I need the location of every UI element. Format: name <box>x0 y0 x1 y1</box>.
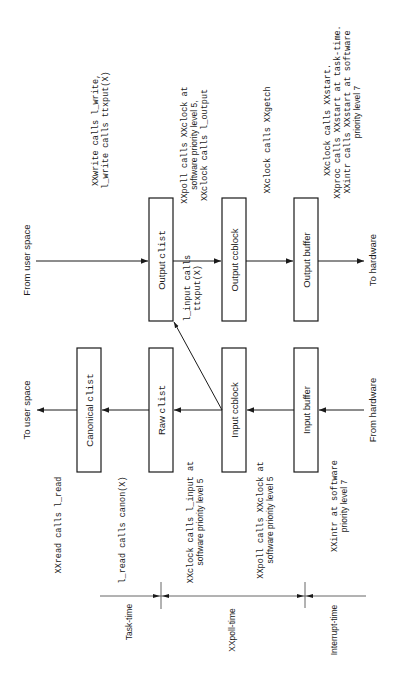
interrupt-time-label: Interrupt-time <box>329 604 339 655</box>
annotation-clock-input-line2: software priority level 5 <box>195 478 205 565</box>
to-hardware-label: To hardware <box>367 234 378 286</box>
axis-arrowhead <box>162 594 169 598</box>
svg-text:Output clist: Output clist <box>156 230 168 290</box>
xxpoll-time-label: XXpoll-time <box>227 608 237 652</box>
svg-text:Input ccblock: Input ccblock <box>229 382 240 438</box>
canonical-clist-box: Canonical clist <box>77 348 101 472</box>
output-ccblock-box: Output ccblock <box>222 198 246 321</box>
annotation-poll-line3: XXclock calls l_output <box>200 89 210 201</box>
from-user-space-label: From user space <box>21 224 32 295</box>
axis-arrowhead <box>306 594 313 598</box>
annotation-poll-clock-line2: software priority level 5 <box>265 476 275 563</box>
annotation-write-line1: XXwrite calls l_write, <box>91 74 101 186</box>
time-axis: Task-time XXpoll-time Interrupt-time <box>100 582 366 655</box>
axis-arrowhead <box>153 594 160 598</box>
input-path: To user space Canonical clist Raw clist … <box>21 348 378 472</box>
input-buffer-box: Input buffer <box>294 348 318 472</box>
svg-text:Input buffer: Input buffer <box>301 386 312 434</box>
annotation-poll-line2: software priority level 5, <box>189 100 199 189</box>
axis-arrowhead <box>297 594 304 598</box>
annotation-read: XXread calls l_read <box>54 477 64 574</box>
input-ccblock-box: Input ccblock <box>222 348 246 472</box>
from-hardware-label: From hardware <box>367 378 378 442</box>
output-buffer-box: Output buffer <box>294 198 318 321</box>
echo-label: l_input calls <box>183 255 193 321</box>
tty-data-flow-diagram: From user space Output clist Output ccbl… <box>0 0 399 689</box>
annotation-canon: l_read calls canon(X) <box>118 476 128 583</box>
annotation-start-line1: XXclock calls XXstart. <box>323 64 333 176</box>
task-time-label: Task-time <box>124 604 134 641</box>
echo-label-line2: ttxput(X) <box>193 265 203 311</box>
echo-arrow <box>174 322 222 410</box>
annotation-start-line4: priority level 7 <box>352 86 362 139</box>
annotation-intr-line2: priority level 7 <box>339 480 349 533</box>
output-annotations: XXwrite calls l_write, l_write calls ttx… <box>91 25 362 203</box>
raw-clist-box: Raw clist <box>149 348 173 472</box>
svg-text:Output buffer: Output buffer <box>301 232 312 287</box>
svg-text:Output ccblock: Output ccblock <box>229 228 240 291</box>
annotation-write-line2: l_write calls ttxput(X) <box>101 71 111 188</box>
annotation-getch: XXclock calls XXgetch <box>263 86 273 193</box>
input-annotations: XXread calls l_read l_read calls canon(X… <box>54 460 349 583</box>
svg-text:Raw clist: Raw clist <box>156 385 168 435</box>
output-clist-box: Output clist <box>149 198 173 321</box>
svg-text:Canonical clist: Canonical clist <box>84 373 96 446</box>
annotation-start-line2: XXproc calls XXstart at task-time. <box>333 25 343 198</box>
to-user-space-label: To user space <box>21 380 32 439</box>
